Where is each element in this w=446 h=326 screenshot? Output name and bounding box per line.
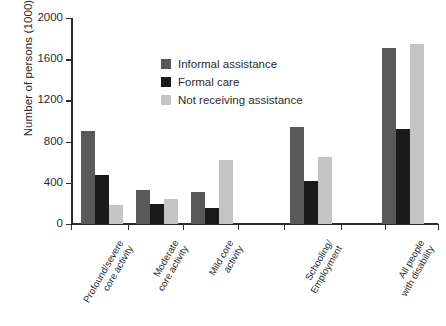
bar [136,190,150,225]
legend-label: Informal assistance [178,58,277,70]
x-tick-mark [128,224,129,230]
legend-swatch-icon [161,77,171,87]
y-axis-title: Number of persons (1000) [22,0,34,158]
x-tick-mark [71,224,72,230]
y-axis-line [71,18,73,225]
legend-swatch-icon [161,59,171,69]
x-category-label: Moderate core activity [128,238,190,323]
y-tick-mark [66,183,71,184]
y-tick-label: 0 [57,217,63,229]
x-tick-mark [238,224,239,230]
x-category-label: Profound/severe core activity [73,238,135,323]
bar [150,204,164,224]
x-tick-mark [385,224,386,230]
x-tick-mark [438,224,439,230]
bar [109,205,123,224]
bar [219,160,233,224]
y-tick-label: 1600 [37,52,63,64]
legend-label: Formal care [178,76,239,88]
legend-item: Formal care [161,74,303,89]
bar [81,131,95,224]
x-category-label: All people with disability [374,238,436,323]
y-tick-label: 400 [44,176,63,188]
bar [410,44,424,224]
x-category-label: Mild core activity [183,238,245,323]
legend-swatch-icon [161,95,171,105]
legend-label: Not receiving assistance [178,94,303,106]
y-tick-label: 800 [44,135,63,147]
y-tick-mark [66,18,71,19]
bar [318,157,332,224]
bar [304,181,318,224]
bar [205,208,219,224]
bar [396,129,410,224]
bar [290,127,304,224]
bar [95,175,109,224]
bar [382,48,396,224]
chart-legend: Informal assistanceFormal careNot receiv… [161,56,303,110]
y-tick-mark [66,59,71,60]
x-tick-mark [284,224,285,230]
x-category-label: Schooling/ Employment [282,238,344,323]
bar [164,199,178,224]
plot-area: 0400800120016002000 [71,18,438,224]
legend-item: Informal assistance [161,56,303,71]
y-tick-mark [66,100,71,101]
legend-item: Not receiving assistance [161,92,303,107]
x-tick-mark [183,224,184,230]
bar-chart: Number of persons (1000) 040080012001600… [0,0,446,326]
y-tick-label: 1200 [37,93,63,105]
bar [191,192,205,224]
y-tick-label: 2000 [37,11,63,23]
y-tick-mark [66,142,71,143]
x-tick-mark [341,224,342,230]
